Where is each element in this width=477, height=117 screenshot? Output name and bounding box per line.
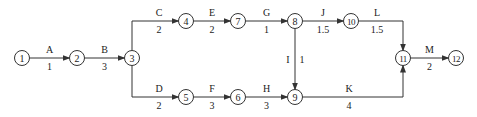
- event-node-8: 8: [288, 14, 303, 29]
- node-number: 3: [130, 53, 135, 64]
- node-number: 6: [236, 92, 241, 103]
- activity-duration: 4: [347, 100, 352, 111]
- event-node-7: 7: [231, 14, 246, 29]
- node-number: 12: [452, 54, 460, 64]
- node-number: 4: [184, 16, 189, 27]
- activity-duration: 1: [47, 61, 52, 72]
- activity-duration: 3: [102, 61, 107, 72]
- activity-duration: 1: [264, 24, 269, 35]
- activity-label: I: [286, 54, 289, 65]
- diagram-canvas: A1B3C2D2E2F3G1H3I1J1.5K4L1.5M2 123478105…: [0, 0, 477, 117]
- activity-label: D: [155, 83, 162, 94]
- activity-arrow-c: [132, 21, 179, 51]
- node-number: 8: [293, 16, 298, 27]
- activity-arrow-k: [303, 66, 404, 98]
- activity-duration: 3: [264, 100, 269, 111]
- node-number: 5: [184, 92, 189, 103]
- node-number: 2: [75, 53, 80, 64]
- activity-duration: 1.5: [317, 24, 330, 35]
- edges-layer: [30, 21, 449, 97]
- activity-duration: 3: [210, 100, 215, 111]
- event-node-1: 1: [15, 51, 30, 66]
- activity-label: L: [374, 7, 380, 18]
- activity-label: G: [263, 7, 270, 18]
- activity-label: C: [156, 7, 163, 18]
- event-node-5: 5: [179, 90, 194, 105]
- activity-duration: 2: [157, 100, 162, 111]
- event-node-3: 3: [125, 51, 140, 66]
- node-number: 9: [293, 92, 298, 103]
- activity-label: F: [209, 83, 215, 94]
- activity-label: M: [425, 44, 434, 55]
- activity-label: A: [46, 44, 54, 55]
- activity-duration: 2: [210, 24, 215, 35]
- activity-duration: 1.5: [371, 24, 384, 35]
- nodes-layer: 123478105691112: [15, 14, 464, 105]
- event-node-4: 4: [179, 14, 194, 29]
- node-number: 1: [20, 53, 25, 64]
- activity-duration: 2: [427, 61, 432, 72]
- activity-label: B: [101, 44, 108, 55]
- node-number: 11: [399, 54, 407, 64]
- network-diagram: A1B3C2D2E2F3G1H3I1J1.5K4L1.5M2 123478105…: [0, 0, 477, 117]
- activity-duration: 1: [300, 54, 305, 65]
- activity-label: E: [209, 7, 215, 18]
- node-number: 7: [236, 16, 241, 27]
- event-node-11: 11: [396, 51, 411, 66]
- node-number: 10: [347, 17, 356, 27]
- activity-label: J: [321, 7, 325, 18]
- event-node-6: 6: [231, 90, 246, 105]
- event-node-2: 2: [70, 51, 85, 66]
- activity-label: K: [345, 83, 353, 94]
- activity-duration: 2: [157, 24, 162, 35]
- event-node-12: 12: [449, 51, 464, 66]
- event-node-10: 10: [344, 14, 359, 29]
- event-node-9: 9: [288, 90, 303, 105]
- activity-label: H: [263, 83, 270, 94]
